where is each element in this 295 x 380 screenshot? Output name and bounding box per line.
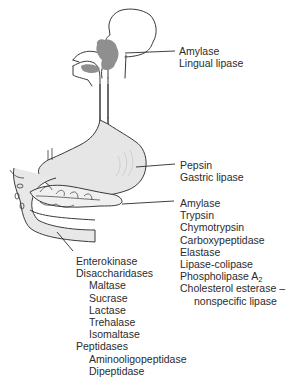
enzyme-gastric-lipase: Gastric lipase [180, 171, 244, 183]
enzyme-group-peptidases: Peptidases [76, 340, 186, 352]
enzyme-lipase-colipase: Lipase-colipase [180, 258, 285, 270]
enzyme-trehalase: Trehalase [76, 316, 186, 328]
enzyme-nonspecific-lipase: nonspecific lipase [180, 295, 285, 307]
enzyme-lingual-lipase: Lingual lipase [179, 57, 243, 69]
enzyme-lactase: Lactase [76, 304, 186, 316]
enzyme-elastase: Elastase [180, 246, 285, 258]
mouth-enzymes-label: Amylase Lingual lipase [179, 45, 243, 69]
enzyme-group-disaccharidases: Disaccharidases [76, 267, 186, 279]
enzyme-phospholipase-a2: Phospholipase A2 [180, 270, 285, 282]
enzyme-chymotrypsin: Chymotrypsin [180, 221, 285, 233]
enzyme-pepsin: Pepsin [180, 159, 244, 171]
enzyme-maltase: Maltase [76, 279, 186, 291]
pancreas-enzymes-label: Amylase Trypsin Chymotrypsin Carboxypept… [180, 197, 285, 307]
enzyme-dipeptidase: Dipeptidase [76, 365, 186, 377]
parotid-gland [96, 39, 118, 70]
enzyme-enterokinase: Enterokinase [76, 255, 186, 267]
leader-mouth [125, 51, 175, 53]
enzyme-isomaltase: Isomaltase [76, 328, 186, 340]
enzyme-sucrase: Sucrase [76, 292, 186, 304]
enzyme-aminooligopeptidase: Aminooligopeptidase [76, 353, 186, 365]
small-intestine-enzymes-label: Enterokinase Disaccharidases Maltase Suc… [76, 255, 186, 377]
enzyme-carboxypeptidase: Carboxypeptidase [180, 234, 285, 246]
enzyme-trypsin: Trypsin [180, 209, 285, 221]
enzyme-amylase-salivary: Amylase [179, 45, 243, 57]
stomach-enzymes-label: Pepsin Gastric lipase [180, 159, 244, 183]
enzyme-amylase-pancreatic: Amylase [180, 197, 285, 209]
enzyme-cholesterol-esterase: Cholesterol esterase – [180, 282, 285, 294]
leader-pancreas [122, 201, 174, 204]
